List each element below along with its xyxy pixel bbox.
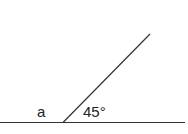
angle-diagram: a 45°	[0, 0, 188, 134]
angled-ray	[63, 34, 150, 123]
angle-label-a: a	[37, 104, 45, 119]
angle-label-45: 45°	[83, 104, 106, 119]
